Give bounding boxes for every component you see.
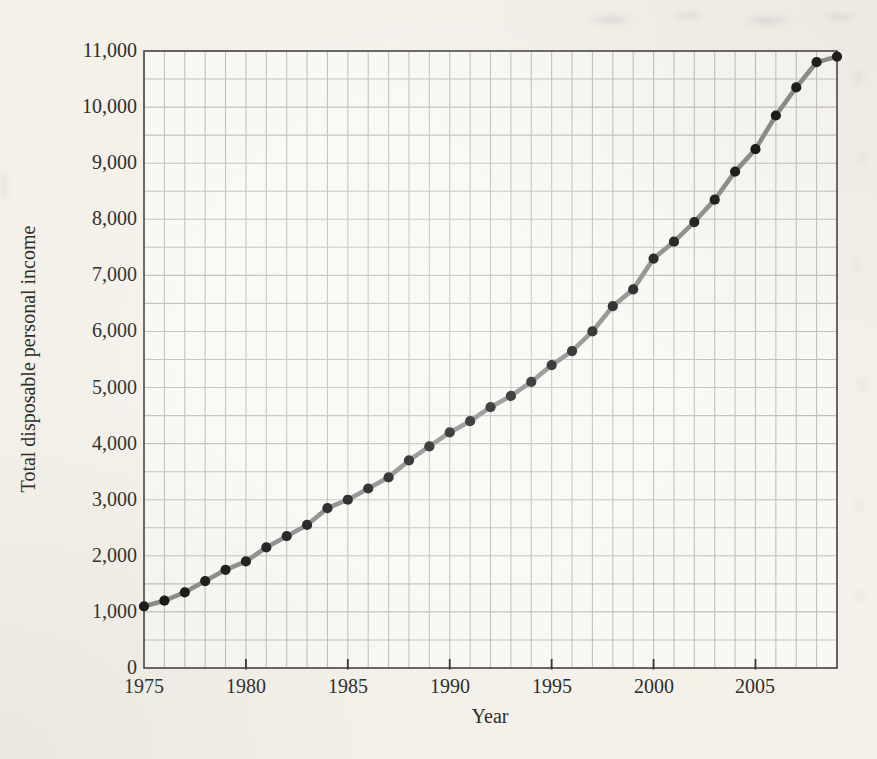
data-point-1983 xyxy=(302,520,312,530)
data-point-2005 xyxy=(750,144,760,154)
data-point-1995 xyxy=(547,360,557,370)
x-tick-label-1980: 1980 xyxy=(226,675,266,698)
x-tick-label-2000: 2000 xyxy=(634,675,674,698)
data-point-1982 xyxy=(282,531,292,541)
data-point-1985 xyxy=(343,495,353,505)
data-point-2003 xyxy=(710,195,720,205)
y-axis-title: Total disposable personal income xyxy=(17,226,40,493)
data-point-2009 xyxy=(832,52,842,62)
y-tick-label-5000: 5,000 xyxy=(30,376,137,399)
y-tick-label-10000: 10,000 xyxy=(30,95,137,118)
y-tick-label-11000: 11,000 xyxy=(30,39,137,62)
y-tick-label-4000: 4,000 xyxy=(30,432,137,455)
scanned-textbook-page: 01,0002,0003,0004,0005,0006,0007,0008,00… xyxy=(0,0,877,759)
data-point-1980 xyxy=(241,556,251,566)
y-tick-label-9000: 9,000 xyxy=(30,151,137,174)
data-point-1975 xyxy=(139,601,149,611)
data-point-2008 xyxy=(812,57,822,67)
y-tick-label-8000: 8,000 xyxy=(30,207,137,230)
data-point-1987 xyxy=(383,472,393,482)
data-point-2006 xyxy=(771,110,781,120)
data-point-2001 xyxy=(669,237,679,247)
data-point-2007 xyxy=(791,82,801,92)
data-point-1988 xyxy=(404,455,414,465)
y-tick-label-3000: 3,000 xyxy=(30,488,137,511)
data-point-1991 xyxy=(465,416,475,426)
data-point-1996 xyxy=(567,346,577,356)
y-tick-label-0: 0 xyxy=(30,656,137,679)
x-tick-label-1990: 1990 xyxy=(430,675,470,698)
data-point-2000 xyxy=(648,253,658,263)
data-point-1981 xyxy=(261,542,271,552)
data-point-1999 xyxy=(628,284,638,294)
data-point-1986 xyxy=(363,483,373,493)
x-tick-label-1995: 1995 xyxy=(532,675,572,698)
y-tick-label-2000: 2,000 xyxy=(30,544,137,567)
data-point-1978 xyxy=(200,576,210,586)
data-point-1984 xyxy=(322,503,332,513)
y-tick-label-1000: 1,000 xyxy=(30,600,137,623)
data-point-1977 xyxy=(180,587,190,597)
data-point-1990 xyxy=(445,427,455,437)
y-tick-label-7000: 7,000 xyxy=(30,263,137,286)
x-tick-label-1985: 1985 xyxy=(328,675,368,698)
x-tick-label-1975: 1975 xyxy=(124,675,164,698)
data-point-2002 xyxy=(689,217,699,227)
data-point-1976 xyxy=(159,596,169,606)
data-point-1992 xyxy=(485,402,495,412)
data-point-1979 xyxy=(220,565,230,575)
data-point-1994 xyxy=(526,377,536,387)
x-axis-title: Year xyxy=(472,705,509,728)
y-tick-label-6000: 6,000 xyxy=(30,319,137,342)
x-tick-label-2005: 2005 xyxy=(735,675,775,698)
data-point-2004 xyxy=(730,166,740,176)
data-point-1993 xyxy=(506,391,516,401)
data-point-1997 xyxy=(587,326,597,336)
data-point-1989 xyxy=(424,441,434,451)
data-point-1998 xyxy=(608,301,618,311)
